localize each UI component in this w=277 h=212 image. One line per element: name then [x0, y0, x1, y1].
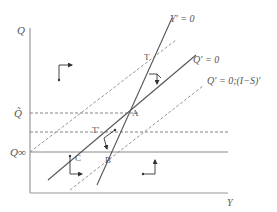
direction-arrow-upper-left — [58, 65, 72, 81]
y-axis-label: Q — [17, 24, 25, 36]
point-t-prime-label: T′ — [92, 125, 99, 135]
direction-arrow-near-t — [149, 74, 161, 84]
point-a-label: A — [132, 108, 139, 118]
y-prime-label: Y′ = 0 — [170, 13, 195, 24]
q-prime-shifted-line — [70, 86, 203, 190]
direction-arrow-lower-right — [142, 160, 155, 175]
point-c-label: C — [75, 153, 81, 163]
x-axis-label: Y — [227, 197, 234, 208]
q-tilde-label: Q̃ — [14, 107, 22, 119]
q-inf-label: Q∞ — [10, 146, 26, 158]
point-b-label: B — [105, 155, 111, 165]
q-prime-label: Q′ = 0 — [193, 54, 219, 65]
phase-diagram: Q Y Q̃ Q∞ Y′ = 0 Q′ = 0 Q′ = 0;(I−S)′ A … — [0, 0, 277, 212]
point-t-label: T — [144, 52, 150, 62]
q-prime-shifted-label: Q′ = 0;(I−S)′ — [207, 75, 261, 87]
